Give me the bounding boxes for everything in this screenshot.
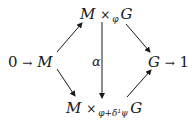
m-text: M — [37, 53, 52, 71]
zero-text: 0 — [8, 53, 18, 71]
node-top: M ×φG — [80, 7, 133, 24]
arrow-glyph: → — [22, 56, 32, 70]
top-times: × — [100, 8, 110, 22]
alpha-label: α — [92, 55, 101, 68]
one-text: 1 — [180, 53, 190, 71]
arrow-bottom-to-g — [127, 70, 151, 97]
top-subscript: φ — [112, 14, 118, 24]
node-left: 0 → M — [8, 55, 53, 70]
node-right: G → 1 — [148, 55, 189, 70]
arrow-glyph-right: → — [165, 56, 175, 70]
bottom-m: M — [66, 99, 81, 117]
node-bottom: M ×φ+δ¹ψG — [66, 101, 142, 118]
top-g: G — [121, 5, 133, 23]
bottom-times: × — [86, 102, 96, 116]
bottom-g: G — [130, 99, 142, 117]
bottom-subscript: φ+δ¹ψ — [98, 108, 128, 118]
arrow-m-to-top — [57, 23, 82, 52]
g-text: G — [148, 53, 160, 71]
top-m: M — [80, 5, 95, 23]
arrow-m-to-bottom — [57, 69, 75, 96]
arrow-top-to-g — [126, 24, 150, 52]
